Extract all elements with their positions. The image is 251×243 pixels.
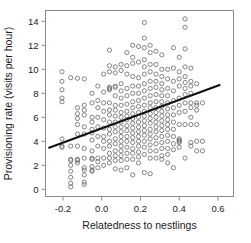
data-point — [131, 106, 135, 110]
data-point — [200, 149, 204, 153]
data-point — [107, 144, 111, 148]
data-point — [131, 131, 135, 135]
data-point — [82, 146, 86, 150]
data-point — [142, 139, 146, 143]
data-point — [131, 136, 135, 140]
data-point — [171, 46, 175, 50]
data-point — [131, 74, 135, 78]
data-point — [96, 98, 100, 102]
data-point — [189, 79, 193, 83]
data-point — [148, 62, 152, 66]
data-point — [148, 112, 152, 116]
data-point — [189, 115, 193, 119]
plot-frame-rect — [46, 11, 234, 197]
data-point — [195, 149, 199, 153]
data-point — [107, 113, 111, 117]
data-point — [113, 94, 117, 98]
data-point — [90, 115, 94, 119]
data-point — [82, 125, 86, 129]
data-point — [113, 137, 117, 141]
data-point — [166, 161, 170, 165]
data-point — [183, 25, 187, 29]
data-point — [119, 96, 123, 100]
data-point — [160, 128, 164, 132]
data-point — [195, 82, 199, 86]
data-point — [183, 122, 187, 126]
data-point — [154, 136, 158, 140]
data-point — [183, 80, 187, 84]
y-axis-ticks: 02468101214 — [28, 16, 46, 195]
data-point — [183, 74, 187, 78]
data-point — [171, 142, 175, 146]
data-point — [131, 151, 135, 155]
data-point — [136, 120, 140, 124]
data-point — [82, 103, 86, 107]
data-point — [136, 150, 140, 154]
data-point — [107, 139, 111, 143]
data-point — [131, 100, 135, 104]
data-point — [113, 167, 117, 171]
scatter-plot-figure: -0.20.00.20.40.6 02468101214 Relatedness… — [0, 0, 251, 243]
data-point — [113, 125, 117, 129]
data-point — [171, 148, 175, 152]
data-point — [166, 133, 170, 137]
data-point — [166, 94, 170, 98]
data-point — [183, 101, 187, 105]
data-point — [148, 86, 152, 90]
data-point — [131, 126, 135, 130]
data-point — [107, 161, 111, 165]
data-point — [113, 149, 117, 153]
data-point — [160, 146, 164, 150]
data-point — [160, 124, 164, 128]
data-point — [82, 77, 86, 81]
data-point — [75, 116, 79, 120]
data-point — [183, 109, 187, 113]
data-point — [160, 82, 164, 86]
data-point — [75, 76, 79, 80]
data-point — [136, 76, 140, 80]
data-point — [189, 84, 193, 88]
data-point — [142, 103, 146, 107]
data-point — [102, 134, 106, 138]
data-point — [177, 122, 181, 126]
data-point — [142, 128, 146, 132]
data-point — [166, 122, 170, 126]
data-point — [113, 65, 117, 69]
data-point — [131, 55, 135, 59]
data-point — [183, 92, 187, 96]
data-point — [102, 118, 106, 122]
y-tick-label: 4 — [33, 136, 38, 147]
data-point — [119, 125, 123, 129]
data-point — [166, 146, 170, 150]
y-tick-label: 10 — [28, 64, 39, 75]
data-point — [69, 76, 73, 80]
data-point — [136, 155, 140, 159]
data-point — [131, 112, 135, 116]
data-point — [125, 124, 129, 128]
data-point — [131, 157, 135, 161]
data-point — [125, 109, 129, 113]
data-point — [82, 108, 86, 112]
data-point — [96, 134, 100, 138]
data-point — [69, 163, 73, 167]
x-tick-label: -0.2 — [55, 203, 71, 214]
data-point — [90, 101, 94, 105]
data-point — [200, 139, 204, 143]
data-point — [171, 79, 175, 83]
data-point — [189, 66, 193, 70]
data-point — [166, 139, 170, 143]
data-point — [107, 64, 111, 68]
data-point — [189, 106, 193, 110]
data-point — [183, 156, 187, 160]
data-point — [131, 91, 135, 95]
data-point — [102, 163, 106, 167]
data-point — [136, 91, 140, 95]
data-point — [136, 125, 140, 129]
x-axis-ticks: -0.20.00.20.40.6 — [55, 197, 225, 214]
data-point — [107, 156, 111, 160]
data-point — [166, 127, 170, 131]
data-point — [160, 109, 164, 113]
data-point — [160, 119, 164, 123]
data-point — [107, 48, 111, 52]
data-point — [113, 114, 117, 118]
